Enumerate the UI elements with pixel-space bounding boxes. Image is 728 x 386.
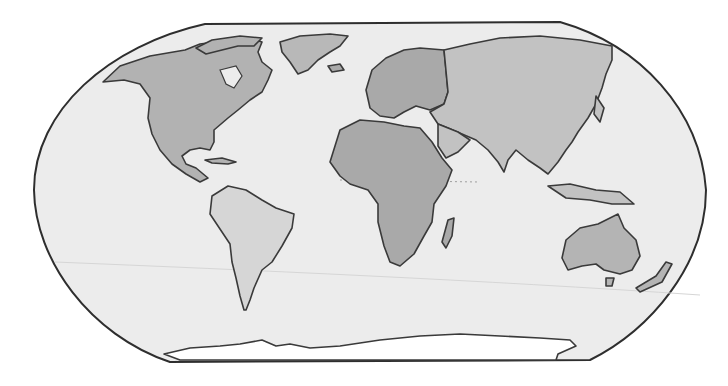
world-map-svg <box>0 0 728 386</box>
region-tasmania <box>606 278 614 286</box>
region-iceland <box>328 64 344 72</box>
world-map <box>0 0 728 386</box>
